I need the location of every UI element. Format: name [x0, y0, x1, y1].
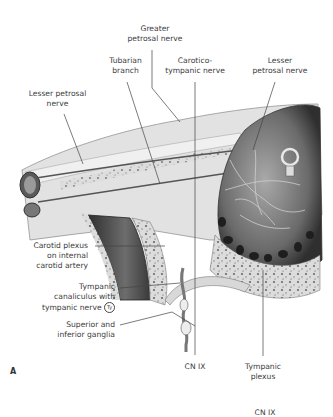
panel-label: A: [10, 367, 16, 376]
label-line: Superior and: [40, 320, 115, 330]
label-line: carotid artery: [20, 261, 88, 271]
label-line: tympanic nerve Ty: [30, 302, 115, 313]
label-text: tympanic nerve: [42, 303, 102, 312]
label-caroticotympanic-nerve: Carotico- tympanic nerve: [160, 56, 230, 76]
label-line: plexus: [235, 372, 291, 382]
label-line: petrosal nerve: [245, 66, 315, 76]
label-line: branch: [103, 66, 148, 76]
label-line: canaliculus with: [30, 292, 115, 302]
label-cn-ix: CN IX: [175, 362, 215, 372]
label-line: Lesser petrosal: [25, 89, 90, 99]
label-line: Greater: [120, 24, 190, 34]
tympanic-nerve-badge-icon: Ty: [104, 302, 115, 313]
label-lesser-petrosal-nerve-right: Lesser petrosal nerve: [245, 56, 315, 76]
label-lesser-petrosal-nerve-left: Lesser petrosal nerve: [25, 89, 90, 109]
label-line: nerve: [25, 99, 90, 109]
label-line: Tympanic: [235, 362, 291, 372]
label-line: Tympanic: [30, 282, 115, 292]
label-line: Carotid plexus: [20, 241, 88, 251]
label-tympanic-plexus: Tympanic plexus: [235, 362, 291, 382]
label-line: Carotico-: [160, 56, 230, 66]
label-line: inferior ganglia: [40, 330, 115, 340]
label-line: petrosal nerve: [120, 34, 190, 44]
label-line: Tubarian: [103, 56, 148, 66]
label-cn-ix-bottom: CN IX: [245, 408, 285, 417]
label-carotid-plexus: Carotid plexus on internal carotid arter…: [20, 241, 88, 271]
label-greater-petrosal-nerve: Greater petrosal nerve: [120, 24, 190, 44]
label-line: Lesser: [245, 56, 315, 66]
label-line: on internal: [20, 251, 88, 261]
label-tympanic-canaliculus: Tympanic canaliculus with tympanic nerve…: [30, 282, 115, 313]
label-superior-inferior-ganglia: Superior and inferior ganglia: [40, 320, 115, 340]
label-line: tympanic nerve: [160, 66, 230, 76]
label-tubarian-branch: Tubarian branch: [103, 56, 148, 76]
